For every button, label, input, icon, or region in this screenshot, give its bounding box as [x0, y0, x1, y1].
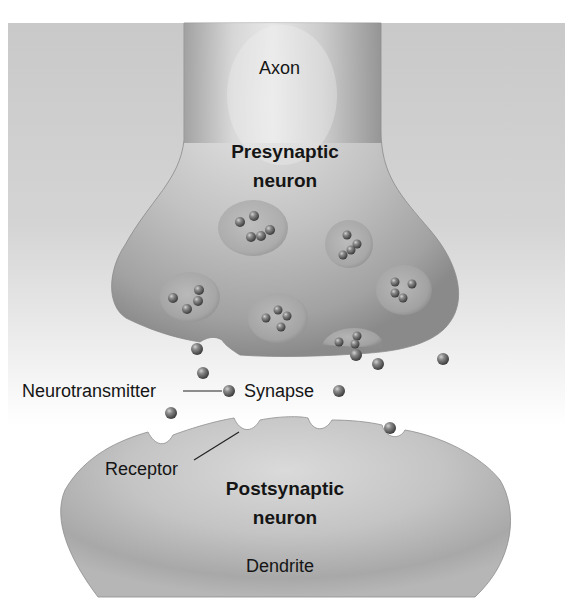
postsynaptic-neuron-label: Postsynaptic neuron — [200, 474, 370, 532]
neurotransmitter-molecule — [191, 343, 203, 355]
presynaptic-neuron-label: Presynaptic neuron — [200, 137, 370, 195]
presynaptic-label-line2: neuron — [200, 166, 370, 195]
vesicle — [248, 293, 308, 343]
vesicle — [325, 220, 373, 268]
dendrite-label: Dendrite — [246, 557, 314, 575]
neurotransmitter-molecule — [223, 385, 235, 397]
axon-label: Axon — [259, 59, 300, 77]
postsynaptic-label-line2: neuron — [200, 503, 370, 532]
neurotransmitter-molecule — [437, 353, 449, 365]
neurotransmitter-molecule — [165, 407, 177, 419]
neurotransmitter-bound — [384, 422, 396, 434]
vesicle — [218, 200, 288, 256]
neurotransmitter-label: Neurotransmitter — [22, 382, 156, 400]
vesicle — [376, 265, 432, 315]
neurotransmitter-molecule — [350, 349, 362, 361]
presynaptic-label-line1: Presynaptic — [200, 137, 370, 166]
vesicle — [160, 272, 220, 322]
synapse-diagram: Axon Presynaptic neuron Neurotransmitter… — [0, 0, 570, 606]
neurotransmitter-molecule — [372, 358, 384, 370]
neurotransmitter-molecule — [333, 385, 345, 397]
synapse-label: Synapse — [244, 382, 314, 400]
neurotransmitter-molecule — [197, 367, 209, 379]
postsynaptic-label-line1: Postsynaptic — [200, 474, 370, 503]
receptor-label: Receptor — [105, 460, 178, 478]
